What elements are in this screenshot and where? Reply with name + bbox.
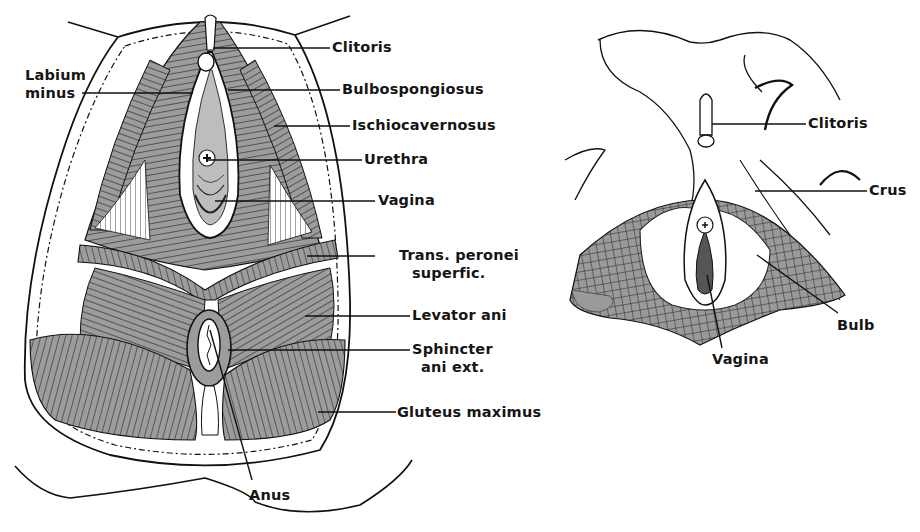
label-crus: Crus (869, 181, 907, 199)
label-vagina-right: Vagina (712, 350, 769, 368)
label-trans-peronei: Trans. peronei superfic. (399, 246, 519, 282)
label-labium-minus: Labium minus (25, 66, 86, 102)
label-bulbospongiosus: Bulbospongiosus (342, 80, 484, 98)
label-clitoris-left: Clitoris (332, 38, 392, 56)
label-sphincter-line1: Sphincter (412, 340, 493, 358)
label-trans-peronei-line1: Trans. peronei (399, 246, 519, 264)
label-ischiocavernosus: Ischiocavernosus (352, 116, 496, 134)
label-vagina-left: Vagina (378, 191, 435, 209)
label-urethra: Urethra (364, 150, 428, 168)
label-anus: Anus (249, 486, 290, 504)
label-labium-minus-line1: Labium (25, 66, 86, 84)
anatomy-figure: Clitoris Labium minus Bulbospongiosus Is… (0, 0, 920, 532)
label-labium-minus-line2: minus (25, 84, 86, 102)
label-gluteus-maximus: Gluteus maximus (397, 403, 541, 421)
label-clitoris-right: Clitoris (808, 114, 868, 132)
label-trans-peronei-line2: superfic. (399, 264, 519, 282)
label-bulb: Bulb (837, 316, 875, 334)
label-levator-ani: Levator ani (412, 306, 507, 324)
label-sphincter-line2: ani ext. (412, 358, 493, 376)
label-sphincter-ani-ext: Sphincter ani ext. (412, 340, 493, 376)
